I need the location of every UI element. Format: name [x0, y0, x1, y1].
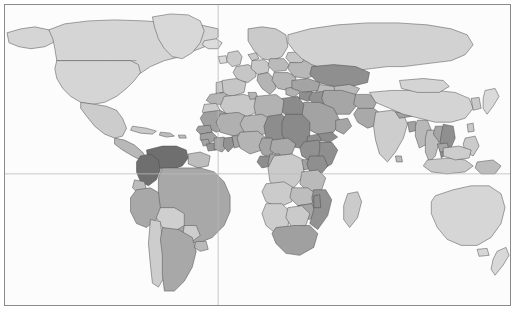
country-portugal[interactable]	[216, 81, 223, 93]
country-sri-lanka[interactable]	[395, 156, 402, 162]
map-frame	[4, 4, 511, 306]
country-taiwan[interactable]	[467, 123, 474, 132]
country-korea[interactable]	[471, 97, 481, 110]
world-choropleth-figure	[0, 0, 515, 310]
country-puerto-rico[interactable]	[178, 135, 186, 138]
world-map-svg[interactable]	[5, 5, 510, 305]
country-tasmania[interactable]	[477, 248, 489, 256]
country-indonesia[interactable]	[423, 158, 473, 174]
country-malawi[interactable]	[314, 195, 321, 208]
